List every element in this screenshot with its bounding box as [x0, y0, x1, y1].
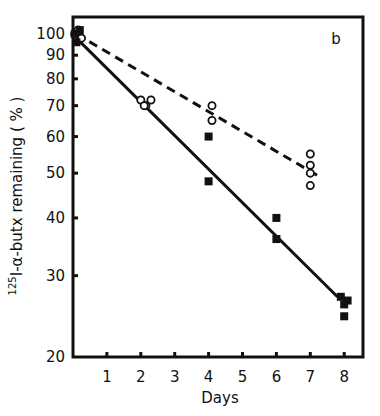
- svg-text:6: 6: [272, 368, 282, 386]
- panel-label: b: [331, 30, 341, 48]
- svg-text:8: 8: [339, 368, 349, 386]
- svg-text:100: 100: [36, 25, 65, 43]
- svg-text:70: 70: [46, 97, 65, 115]
- svg-text:90: 90: [46, 46, 65, 64]
- fit-lines: [76, 34, 337, 297]
- y-tick-labels: 1009080706050403020: [36, 25, 65, 366]
- svg-text:1: 1: [102, 368, 112, 386]
- x-tick-labels: 12345678: [102, 368, 349, 386]
- svg-text:3: 3: [170, 368, 180, 386]
- svg-text:50: 50: [46, 164, 65, 182]
- chart-canvas: 1009080706050403020 12345678 b Days 125I…: [0, 0, 380, 416]
- y-axis-label: 125I-α-butx remaining ( % ): [7, 97, 26, 296]
- svg-text:30: 30: [46, 267, 65, 285]
- svg-text:40: 40: [46, 209, 65, 227]
- tick-marks: [73, 34, 344, 357]
- svg-text:125I-α-butx remaining ( % ): 125I-α-butx remaining ( % ): [7, 97, 26, 296]
- svg-text:80: 80: [46, 70, 65, 88]
- svg-text:2: 2: [136, 368, 146, 386]
- x-axis-label: Days: [201, 389, 239, 407]
- svg-text:60: 60: [46, 128, 65, 146]
- svg-text:4: 4: [204, 368, 214, 386]
- axes: [73, 17, 363, 357]
- svg-text:20: 20: [46, 348, 65, 366]
- svg-text:5: 5: [238, 368, 248, 386]
- svg-text:7: 7: [306, 368, 316, 386]
